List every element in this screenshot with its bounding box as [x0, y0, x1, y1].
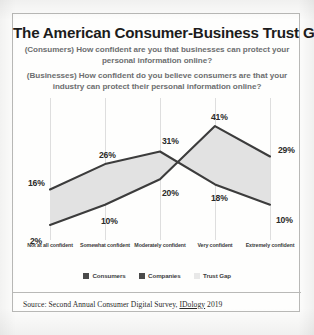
label-companies-4: 29% — [278, 145, 295, 155]
source-note: Source: Second Annual Consumer Digital S… — [23, 300, 293, 309]
label-consumers-2: 31% — [162, 136, 179, 146]
legend-swatch-icon — [139, 273, 145, 279]
infographic-page: The American Consumer-Business Trust Gap… — [0, 0, 314, 335]
source-brand: IDology — [179, 300, 205, 309]
source-prefix: Source: Second Annual Consumer Digital S… — [23, 300, 179, 309]
label-consumers-3: 18% — [211, 193, 228, 203]
legend-label: Consumers — [92, 272, 125, 279]
legend-item-trust-gap[interactable]: Trust Gap — [194, 272, 231, 279]
legend-label: Trust Gap — [203, 272, 231, 279]
label-companies-2: 20% — [162, 188, 179, 198]
page-title: The American Consumer-Business Trust Gap — [13, 24, 301, 41]
legend-item-companies[interactable]: Companies — [139, 272, 181, 279]
label-companies-3: 41% — [211, 112, 228, 122]
label-consumers-1: 26% — [99, 150, 116, 160]
label-companies-1: 10% — [101, 216, 118, 226]
trust-gap-line-chart — [24, 98, 290, 240]
label-consumers-0: 16% — [28, 178, 45, 188]
x-tick-4: Extremely confident — [237, 242, 303, 249]
trust-gap-area — [50, 126, 270, 225]
legend-swatch-icon — [83, 273, 89, 279]
legend-swatch-icon — [194, 273, 200, 279]
source-year: 2019 — [205, 300, 222, 309]
chart-card: The American Consumer-Business Trust Gap… — [12, 13, 300, 312]
label-consumers-4: 10% — [276, 215, 293, 225]
legend-item-consumers[interactable]: Consumers — [83, 272, 126, 279]
chart-plot-area: 16%26%31%18%10%2%10%20%41%29% — [24, 98, 290, 240]
legend-label: Companies — [148, 272, 180, 279]
subtitle-consumers: (Consumers) How confident are you that b… — [23, 44, 291, 67]
subtitle-businesses: (Businesses) How confident do you believ… — [23, 70, 291, 93]
chart-legend: ConsumersCompaniesTrust Gap — [13, 272, 301, 279]
x-axis-labels: Not at all confidentSomewhat confidentMo… — [24, 242, 290, 264]
footer-divider — [13, 292, 301, 293]
